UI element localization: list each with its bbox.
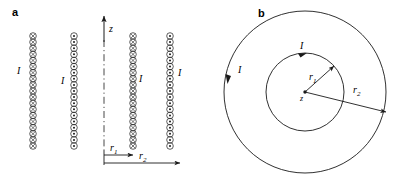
panel-a: a z I I I I [0,0,201,176]
dot-center [73,90,75,92]
dot-center [169,59,171,61]
dot-center [169,127,171,129]
r1-subscript: 1 [114,148,118,156]
r1-label-panel-a: r1 [110,143,117,156]
inner-circle-current-arrowhead [298,53,307,58]
dot-center [169,41,171,43]
column-4-out-of-page [167,33,174,150]
dot-center [169,72,171,74]
dot-center [73,114,75,116]
current-label-column-1: I [17,66,20,76]
current-label-column-2: I [61,76,64,86]
dot-center [73,121,75,123]
z-axis-label: z [109,24,113,34]
r2-label-panel-b: r2 [353,85,360,98]
dot-center [73,102,75,104]
r2-subscript: 2 [143,156,147,164]
panel-b: b z I I [201,0,402,176]
column-1-into-page [30,33,37,150]
current-label-column-3: I [139,74,142,84]
dot-center [73,53,75,55]
dot-center [73,78,75,80]
dot-center [169,114,171,116]
dot-center [169,121,171,123]
r1-label-panel-b: r1 [309,72,316,85]
r2-subscript-b: 2 [357,90,361,98]
column-3-into-page [130,33,137,150]
dot-center [169,133,171,135]
dot-center [169,90,171,92]
dot-center [73,66,75,68]
dot-center [169,47,171,49]
dot-center [73,84,75,86]
dot-center [169,96,171,98]
figure-root: a z I I I I [0,0,402,176]
r2-label-panel-a: r2 [139,151,146,164]
dot-center [169,78,171,80]
r2-arrow-line-panel-b [305,92,386,112]
dot-center [73,59,75,61]
panel-b-drawing [201,0,402,176]
dot-center [169,84,171,86]
current-label-column-4: I [178,68,181,78]
dot-center [73,41,75,43]
dot-center [73,145,75,147]
dot-center [169,108,171,110]
coil-columns-group [30,33,174,150]
dot-center [73,35,75,37]
dot-center [169,35,171,37]
outer-circle-current-arrowhead [226,74,232,84]
inner-circle-current-label: I [300,41,303,51]
outer-circle-current-label: I [238,65,241,75]
center-z-label: z [300,95,303,103]
panel-a-drawing [0,0,201,176]
r1-subscript-b: 1 [313,77,317,85]
dot-center [73,108,75,110]
dot-center [73,133,75,135]
dot-center [73,139,75,141]
dot-center [169,66,171,68]
dot-center [169,102,171,104]
column-2-out-of-page [71,33,78,150]
dot-center [169,145,171,147]
dot-center [169,53,171,55]
dot-center [73,47,75,49]
dot-center [73,96,75,98]
dot-center [73,72,75,74]
dot-center [169,139,171,141]
dot-center [73,127,75,129]
